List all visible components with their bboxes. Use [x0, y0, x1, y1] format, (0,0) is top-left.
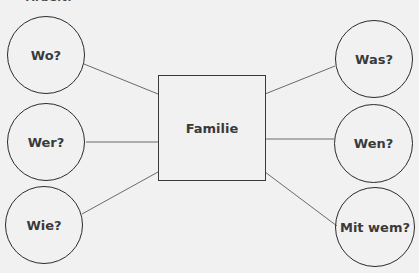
- node-was: Was?: [335, 20, 413, 98]
- center-node-label: Familie: [186, 121, 239, 136]
- node-wen: Wen?: [334, 104, 413, 183]
- node-label: Wer?: [28, 135, 65, 150]
- mindmap-diagram: Arbeit: Familie Wo? Wer? Wie? Was? Wen? …: [0, 0, 419, 273]
- node-label: Wen?: [354, 136, 394, 151]
- node-wie: Wie?: [5, 186, 83, 264]
- node-label: Wo?: [31, 48, 61, 63]
- connector-mit-wem: [265, 172, 337, 226]
- node-label: Mit wem?: [340, 220, 410, 235]
- node-mit-wem: Mit wem?: [335, 187, 415, 267]
- node-wo: Wo?: [7, 16, 85, 94]
- center-node-familie: Familie: [158, 75, 266, 181]
- node-wer: Wer?: [7, 103, 85, 181]
- connector-was: [265, 66, 335, 94]
- node-label: Wie?: [26, 218, 61, 233]
- node-label: Was?: [355, 52, 393, 67]
- connector-wie: [82, 172, 158, 214]
- connector-wo: [84, 64, 158, 94]
